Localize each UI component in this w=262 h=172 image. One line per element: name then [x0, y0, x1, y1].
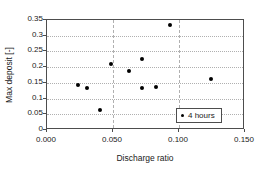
x-tick-mark	[112, 129, 113, 132]
gridline-horizontal	[47, 99, 243, 100]
y-tick-label: 0.2	[3, 62, 43, 70]
y-tick-label: 0.15	[3, 78, 43, 86]
x-tick-label: 0.050	[87, 136, 137, 144]
y-tick-label: 0.25	[3, 46, 43, 54]
y-tick-mark	[43, 19, 46, 20]
x-axis-title: Discharge ratio	[46, 153, 244, 163]
y-tick-label: 0.35	[3, 15, 43, 23]
x-tick-mark	[178, 129, 179, 132]
y-tick-mark	[43, 98, 46, 99]
gridline-horizontal	[47, 51, 243, 52]
y-tick-label: 0.3	[3, 31, 43, 39]
gridline-horizontal	[47, 36, 243, 37]
y-tick-label: 0.05	[3, 109, 43, 117]
data-point	[109, 62, 113, 66]
y-axis-title: Max deposit [-]	[2, 10, 16, 140]
x-tick-label: 0.000	[21, 136, 71, 144]
y-tick-mark	[43, 113, 46, 114]
data-point	[98, 108, 102, 112]
gridline-vertical	[113, 20, 114, 128]
x-tick-label: 0.150	[219, 136, 262, 144]
data-point	[209, 77, 213, 81]
x-tick-mark	[244, 129, 245, 132]
y-tick-mark	[43, 66, 46, 67]
y-tick-mark	[43, 50, 46, 51]
legend-marker-icon	[181, 114, 184, 117]
legend-label: 4 hours	[188, 111, 215, 120]
y-tick-label: 0.1	[3, 94, 43, 102]
y-tick-mark	[43, 82, 46, 83]
y-tick-mark	[43, 35, 46, 36]
data-point	[154, 85, 158, 89]
x-tick-label: 0.100	[153, 136, 203, 144]
gridline-horizontal	[47, 67, 243, 68]
chart-legend: 4 hours	[176, 108, 222, 123]
x-tick-mark	[46, 129, 47, 132]
y-tick-label: 0	[3, 125, 43, 133]
data-point	[127, 69, 131, 73]
chart-figure: Max deposit [-] 00.050.10.150.20.250.30.…	[0, 0, 262, 172]
